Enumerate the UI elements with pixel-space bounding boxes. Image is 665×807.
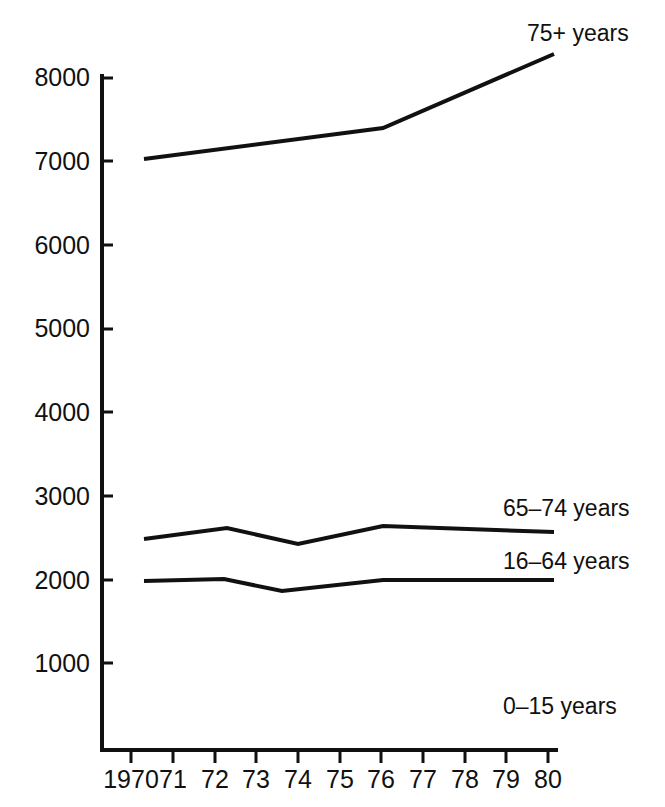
x-tick-label-78: 78 bbox=[445, 766, 485, 792]
series-line-75-plus bbox=[144, 54, 554, 159]
y-tick-label-3000: 3000 bbox=[10, 483, 90, 509]
series-line-16-64 bbox=[144, 579, 554, 591]
y-tick-label-6000: 6000 bbox=[10, 232, 90, 258]
series-label-75-plus: 75+ years bbox=[527, 20, 629, 46]
y-tick-label-4000: 4000 bbox=[10, 399, 90, 425]
x-tick-label-1970: 1970 bbox=[101, 766, 161, 792]
line-chart: 8000 7000 6000 5000 4000 3000 2000 1000 … bbox=[0, 0, 665, 807]
y-tick-label-5000: 5000 bbox=[10, 315, 90, 341]
x-tick-label-72: 72 bbox=[195, 766, 235, 792]
y-tick-label-7000: 7000 bbox=[10, 148, 90, 174]
series-label-16-64: 16–64 years bbox=[503, 548, 630, 574]
y-tick-label-8000: 8000 bbox=[10, 64, 90, 90]
x-tick-label-75: 75 bbox=[320, 766, 360, 792]
x-tick-label-80: 80 bbox=[528, 766, 568, 792]
x-tick-label-73: 73 bbox=[236, 766, 276, 792]
y-tick-label-2000: 2000 bbox=[10, 567, 90, 593]
y-tick-label-1000: 1000 bbox=[10, 650, 90, 676]
x-tick-label-74: 74 bbox=[278, 766, 318, 792]
series-label-65-74: 65–74 years bbox=[503, 495, 630, 521]
series-line-65-74 bbox=[144, 526, 554, 544]
chart-canvas bbox=[0, 0, 665, 807]
x-tick-label-71: 71 bbox=[153, 766, 193, 792]
series-label-0-15: 0–15 years bbox=[503, 693, 617, 719]
x-tick-label-77: 77 bbox=[403, 766, 443, 792]
x-tick-label-79: 79 bbox=[486, 766, 526, 792]
x-tick-label-76: 76 bbox=[361, 766, 401, 792]
